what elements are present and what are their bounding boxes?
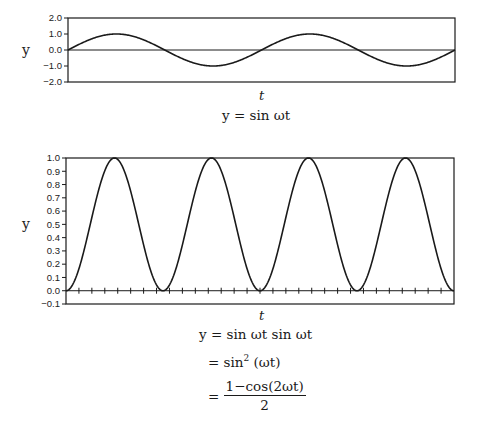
top-caption-formula: y = sin ωt — [222, 107, 290, 123]
y-tick-label: 0.0 — [49, 44, 62, 55]
bottom-formula-line-2-suffix: (ωt) — [254, 354, 281, 370]
bottom-y-axis-label: y — [21, 216, 30, 232]
y-tick-label: 0.7 — [47, 192, 60, 203]
y-tick-label: 1.0 — [49, 28, 62, 39]
y-tick-label: −0.1 — [41, 298, 60, 309]
bottom-formula-line-3-prefix: = — [208, 388, 219, 404]
y-tick-label: 0.8 — [47, 179, 60, 190]
y-tick-label: 0.3 — [47, 245, 60, 256]
bottom-plot-frame — [66, 158, 454, 304]
bottom-formula-fraction: 1−cos(2ωt) 2 — [224, 378, 306, 413]
y-tick-label: 0.5 — [47, 219, 60, 230]
bottom-chart: 1.00.90.80.70.60.50.40.30.20.10.0−0.1 y … — [21, 152, 454, 323]
fraction-denominator: 2 — [224, 396, 306, 413]
y-tick-label: 2.0 — [49, 12, 62, 23]
y-tick-label: 0.0 — [47, 285, 60, 296]
bottom-formula-exponent: 2 — [244, 353, 250, 363]
y-tick-label: 0.1 — [47, 272, 60, 283]
bottom-x-axis-label: t — [259, 308, 265, 323]
bottom-formula-line-1-text: y = sin ωt sin ωt — [199, 326, 312, 342]
bottom-y-axis-ticks: 1.00.90.80.70.60.50.40.30.20.10.0−0.1 — [41, 152, 66, 309]
y-tick-label: −2.0 — [43, 76, 62, 87]
y-tick-label: 0.9 — [47, 166, 60, 177]
y-tick-label: 1.0 — [47, 152, 60, 163]
y-tick-label: 0.6 — [47, 205, 60, 216]
top-y-axis-ticks: 2.01.00.0−1.0−2.0 — [43, 12, 68, 87]
bottom-formula-line-3: = 1−cos(2ωt) 2 — [208, 378, 306, 413]
bottom-formula-line-2-prefix: = sin — [208, 354, 244, 370]
y-tick-label: 0.2 — [47, 258, 60, 269]
bottom-formula-line-1: y = sin ωt sin ωt — [199, 326, 312, 342]
top-y-axis-label: y — [21, 42, 30, 58]
top-x-axis-label: t — [259, 88, 265, 103]
y-tick-label: −1.0 — [43, 60, 62, 71]
top-caption-text: y = sin ωt — [222, 107, 290, 123]
top-chart: 2.01.00.0−1.0−2.0 y t — [21, 12, 455, 103]
y-tick-label: 0.4 — [47, 232, 60, 243]
fraction-numerator: 1−cos(2ωt) — [224, 378, 306, 396]
bottom-sine-squared-curve — [66, 158, 454, 291]
charts-canvas: 2.01.00.0−1.0−2.0 y t 1.00.90.80.70.60.5… — [0, 0, 479, 435]
bottom-formula-line-2: = sin2 (ωt) — [208, 353, 281, 370]
